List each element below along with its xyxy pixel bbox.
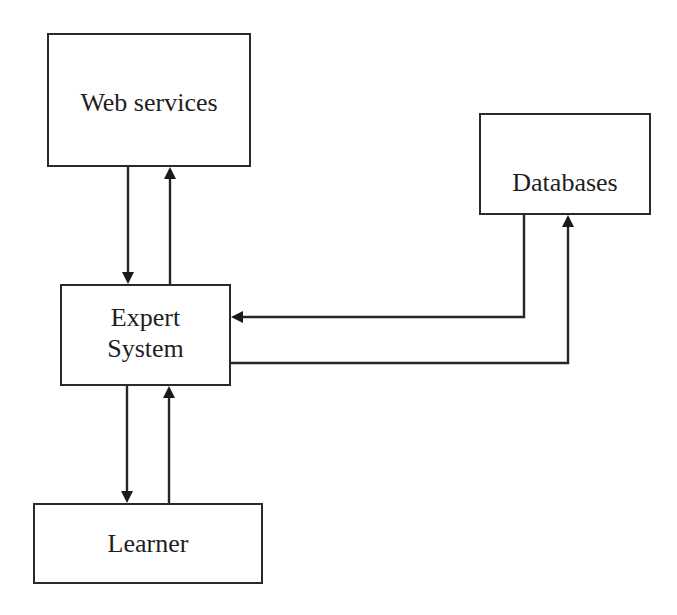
edge-expert-to-learner: [121, 386, 133, 503]
diagram-canvas: Web services Databases Expert System Lea…: [0, 0, 677, 615]
node-label: Web services: [80, 83, 217, 118]
arrowhead-up-icon: [562, 215, 574, 227]
edge-learner-to-expert: [163, 386, 175, 503]
node-databases: Databases: [479, 113, 651, 215]
node-web-services: Web services: [47, 33, 251, 167]
node-expert-system: Expert System: [60, 284, 231, 386]
node-label: Databases: [512, 131, 617, 198]
edge-expert-to-db: [231, 215, 574, 363]
node-label: Expert System: [107, 302, 184, 368]
arrowhead-left-icon: [231, 311, 243, 323]
edge-expert-to-web: [164, 167, 176, 284]
node-label: Learner: [108, 528, 189, 559]
edge-web-to-expert: [122, 167, 134, 284]
arrowhead-up-icon: [163, 386, 175, 398]
arrowhead-down-icon: [121, 491, 133, 503]
arrowhead-down-icon: [122, 272, 134, 284]
edge-db-to-expert: [231, 215, 524, 323]
node-learner: Learner: [33, 503, 263, 584]
arrowhead-up-icon: [164, 167, 176, 179]
